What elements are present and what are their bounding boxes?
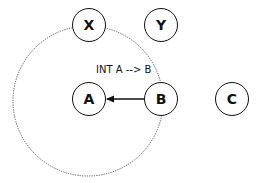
node-a[interactable]: A [72, 82, 106, 116]
node-a-label: A [84, 91, 95, 107]
node-b[interactable]: B [144, 82, 178, 116]
node-x[interactable]: X [72, 8, 106, 42]
node-y-label: Y [156, 17, 166, 33]
node-x-label: X [84, 17, 95, 33]
node-y[interactable]: Y [144, 8, 178, 42]
diagram-canvas: X Y A B C INT A --> B [0, 0, 265, 183]
edge-label-int-a-b: INT A --> B [96, 64, 151, 75]
node-b-label: B [156, 91, 167, 107]
node-c-label: C [227, 91, 237, 107]
node-c[interactable]: C [215, 82, 249, 116]
